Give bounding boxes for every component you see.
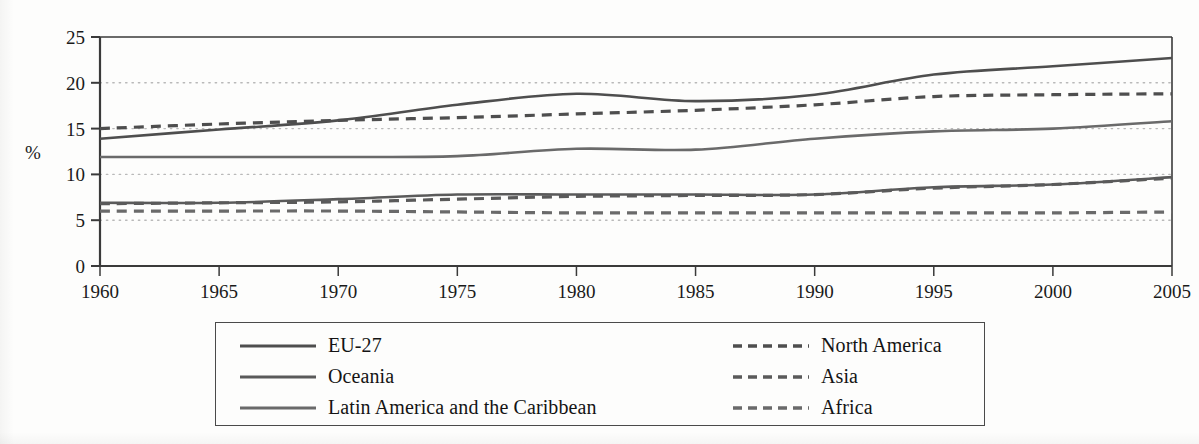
x-tick-label-1970: 1970 [319, 281, 357, 300]
x-tick-label-1965: 1965 [200, 281, 238, 300]
legend-swatch-latin-america-and-the-caribbean-icon [239, 401, 317, 415]
legend-label-north-america: North America [821, 334, 942, 357]
legend-label-eu-27: EU-27 [328, 334, 382, 357]
legend-item-oceania[interactable]: Oceania [216, 361, 716, 392]
series-line-north-america [100, 94, 1172, 129]
y-axis-title: % [25, 142, 41, 163]
legend-swatch-africa-icon [732, 401, 810, 415]
y-tick-label-10: 10 [66, 164, 85, 185]
legend-label-oceania: Oceania [328, 365, 394, 388]
scan-edge-shadow-bottom [0, 432, 1199, 444]
legend-label-asia: Asia [821, 365, 858, 388]
legend-label-latin-america-and-the-caribbean: Latin America and the Caribbean [328, 396, 597, 419]
legend-swatch-oceania-icon [239, 370, 317, 384]
x-tick-label-1975: 1975 [438, 281, 476, 300]
legend-swatch-asia-icon [732, 370, 810, 384]
x-tick-label-1990: 1990 [796, 281, 834, 300]
plot-frame [100, 37, 1172, 266]
legend-item-africa[interactable]: Africa [716, 392, 986, 423]
series-line-asia [100, 178, 1172, 204]
legend-item-eu-27[interactable]: EU-27 [216, 330, 716, 361]
legend-item-latin-america-and-the-caribbean[interactable]: Latin America and the Caribbean [216, 392, 716, 423]
x-tick-label-2000: 2000 [1034, 281, 1072, 300]
legend-item-north-america[interactable]: North America [716, 330, 986, 361]
legend-swatch-eu-27-icon [239, 339, 317, 353]
data-series [100, 58, 1172, 213]
x-tick-label-2005: 2005 [1153, 281, 1191, 300]
y-axis-ticks: 0510152025 [66, 27, 100, 277]
line-chart-svg: 0510152025 19601965197019751980198519901… [0, 0, 1199, 300]
y-tick-label-5: 5 [76, 210, 86, 231]
legend-item-asia[interactable]: Asia [716, 361, 986, 392]
series-line-africa [100, 211, 1172, 213]
x-tick-label-1985: 1985 [677, 281, 715, 300]
legend-grid: EU-27North AmericaOceaniaAsiaLatin Ameri… [216, 330, 984, 423]
series-line-eu-27 [100, 58, 1172, 139]
plot-area: 0510152025 19601965197019751980198519901… [0, 0, 1199, 300]
series-line-oceania [100, 177, 1172, 203]
y-tick-label-0: 0 [76, 256, 86, 277]
y-tick-label-15: 15 [66, 119, 85, 140]
chart-page: 0510152025 19601965197019751980198519901… [0, 0, 1199, 444]
gridlines [100, 83, 1172, 220]
y-tick-label-25: 25 [66, 27, 85, 48]
legend-swatch-north-america-icon [732, 339, 810, 353]
legend-label-africa: Africa [821, 396, 873, 419]
y-tick-label-20: 20 [66, 73, 85, 94]
chart-legend: EU-27North AmericaOceaniaAsiaLatin Ameri… [215, 322, 985, 426]
x-tick-label-1995: 1995 [915, 281, 953, 300]
x-tick-label-1960: 1960 [81, 281, 119, 300]
x-tick-label-1980: 1980 [557, 281, 595, 300]
x-axis-ticks: 1960196519701975198019851990199520002005 [81, 266, 1191, 300]
